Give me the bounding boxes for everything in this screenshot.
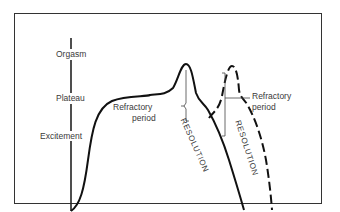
orgasm-label: Orgasm (56, 49, 86, 59)
refractory-2-line1: Refractory (252, 91, 291, 101)
refractory-1-line1: Refractory (113, 102, 152, 112)
refractory-bracket-1 (181, 70, 189, 121)
primary-response-curve (71, 64, 244, 211)
response-cycle-diagram: Orgasm Plateau Excitement Refractory per… (0, 0, 340, 212)
excitement-label: Excitement (40, 131, 82, 141)
response-curves (0, 0, 340, 212)
refractory-1-line2: period (132, 113, 156, 123)
refractory-2-line2: period (252, 102, 276, 112)
plateau-label: Plateau (56, 93, 85, 103)
